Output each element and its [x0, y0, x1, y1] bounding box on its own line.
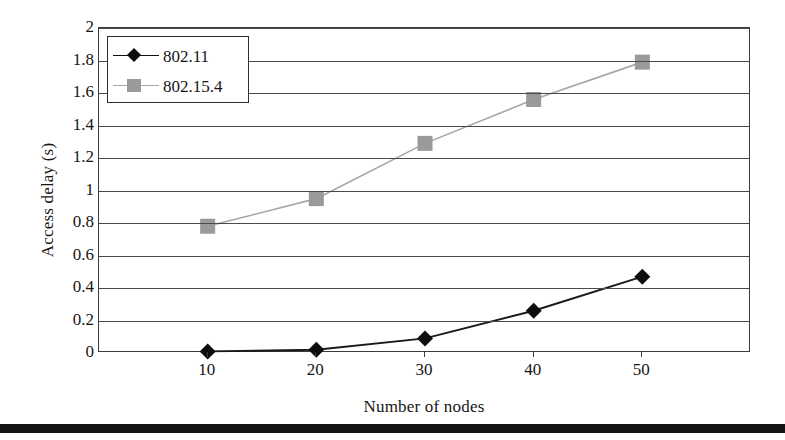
data-point-marker: [417, 330, 433, 346]
x-tick-mark: [641, 352, 642, 357]
x-tick-label: 50: [611, 360, 671, 380]
x-tick-mark: [424, 352, 425, 357]
y-tick-label: 1.2: [24, 148, 94, 165]
x-tick-label: 20: [285, 360, 345, 380]
data-point-marker: [309, 191, 324, 206]
x-axis-title: Number of nodes: [98, 397, 750, 417]
gridline: [99, 158, 749, 159]
y-tick-label: 1.4: [24, 116, 94, 133]
chart-legend: 802.11 802.15.4: [107, 36, 249, 103]
gridline: [99, 288, 749, 289]
y-tick-label: 1.8: [24, 51, 94, 68]
figure-container: Access delay (s) 802.11 802.15.4 Number …: [0, 0, 785, 440]
legend-label-1: 802.15.4: [159, 78, 223, 95]
data-point-marker: [418, 136, 433, 151]
gridline: [99, 126, 749, 127]
gridline: [99, 191, 749, 192]
gridline: [99, 256, 749, 257]
y-tick-label: 0.6: [24, 246, 94, 263]
data-point-marker: [635, 55, 650, 70]
x-tick-mark: [207, 352, 208, 357]
y-tick-label: 1.6: [24, 83, 94, 100]
data-point-marker: [634, 269, 650, 285]
y-tick-label: 0: [24, 343, 94, 360]
x-tick-mark: [533, 352, 534, 357]
x-tick-label: 30: [394, 360, 454, 380]
legend-item-0: 802.11: [108, 41, 248, 71]
gridline: [99, 321, 749, 322]
page-bottom-rule: [0, 424, 785, 433]
y-tick-label: 0.4: [24, 278, 94, 295]
legend-label-0: 802.11: [159, 48, 209, 65]
data-point-marker: [308, 342, 324, 358]
x-tick-label: 10: [177, 360, 237, 380]
data-point-marker: [526, 92, 541, 107]
y-tick-label: 0.2: [24, 311, 94, 328]
legend-item-1: 802.15.4: [108, 71, 248, 101]
diamond-marker-icon: [113, 48, 159, 64]
data-point-marker: [526, 303, 542, 319]
y-tick-label: 2: [24, 18, 94, 35]
y-tick-label: 1: [24, 181, 94, 198]
data-point-marker: [200, 343, 216, 359]
x-tick-label: 40: [503, 360, 563, 380]
y-tick-label: 0.8: [24, 213, 94, 230]
gridline: [99, 223, 749, 224]
x-tick-mark: [315, 352, 316, 357]
square-marker-icon: [113, 78, 159, 94]
data-point-marker: [200, 219, 215, 234]
gridline: [99, 28, 749, 29]
